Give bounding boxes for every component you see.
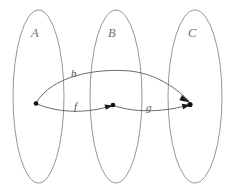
arrowhead-h — [179, 95, 190, 103]
element-dot-b — [111, 103, 116, 108]
set-label-c: C — [188, 26, 197, 40]
set-ellipse-b — [90, 10, 142, 183]
map-label-f: f — [74, 100, 79, 112]
set-label-b: B — [108, 26, 116, 40]
map-label-h: h — [71, 67, 77, 79]
element-dot-a — [34, 101, 39, 106]
diagram-canvas: A B C h f g — [0, 0, 234, 196]
morphism-curve-h — [36, 70, 189, 103]
map-label-g: g — [146, 101, 152, 113]
function-composition-figure: A B C h f g — [0, 0, 234, 196]
element-dot-c — [187, 102, 192, 107]
set-labels-group: A B C — [30, 26, 197, 40]
set-label-a: A — [30, 26, 39, 40]
element-dots-group — [34, 101, 193, 107]
